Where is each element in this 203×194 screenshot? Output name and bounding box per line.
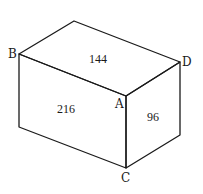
vertex-label-d: D — [182, 55, 192, 69]
vertex-label-c: C — [121, 171, 130, 185]
vertex-label-a: A — [114, 97, 124, 111]
front-face-area: 216 — [57, 102, 75, 116]
side-face-area: 96 — [147, 110, 159, 124]
vertex-label-b: B — [8, 47, 17, 61]
cuboid-diagram: B D A C 144 216 96 — [0, 0, 203, 194]
top-face-area: 144 — [89, 52, 107, 66]
